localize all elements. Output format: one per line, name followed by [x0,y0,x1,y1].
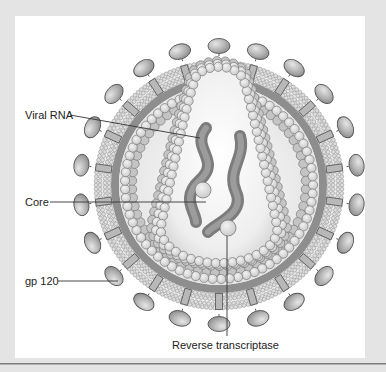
gp120-spike [81,114,104,140]
gp120-spike [81,230,104,256]
gp120-spike [245,308,270,329]
hiv-virion-diagram [0,0,386,372]
label-viral-rna: Viral RNA [25,109,73,121]
label-reverse-transcriptase: Reverse transcriptase [172,339,279,351]
gp120-spike [167,308,192,329]
gp120-spike [348,193,366,217]
gp120-spike [334,230,357,256]
gp120-spike [131,56,158,81]
gp120-spike [245,41,270,62]
gp120-spike [131,290,158,315]
gp120-spike [101,81,127,107]
reverse-transcriptase-molecule [195,182,211,198]
gp120-spike [348,153,366,177]
gp120-spike [311,263,337,289]
gp120-spike [334,114,357,140]
gp120-spike [281,56,308,81]
gp120-spike [101,263,127,289]
gp120-spike [208,39,230,54]
reverse-transcriptase-molecule [220,220,236,236]
gp120-spike [72,193,90,217]
gp120-spike [281,290,308,315]
gp120-spike [72,153,90,177]
label-core: Core [25,196,49,208]
gp120-spike [311,81,337,107]
label-gp120: gp 120 [25,275,59,287]
gp120-spike [167,41,192,62]
